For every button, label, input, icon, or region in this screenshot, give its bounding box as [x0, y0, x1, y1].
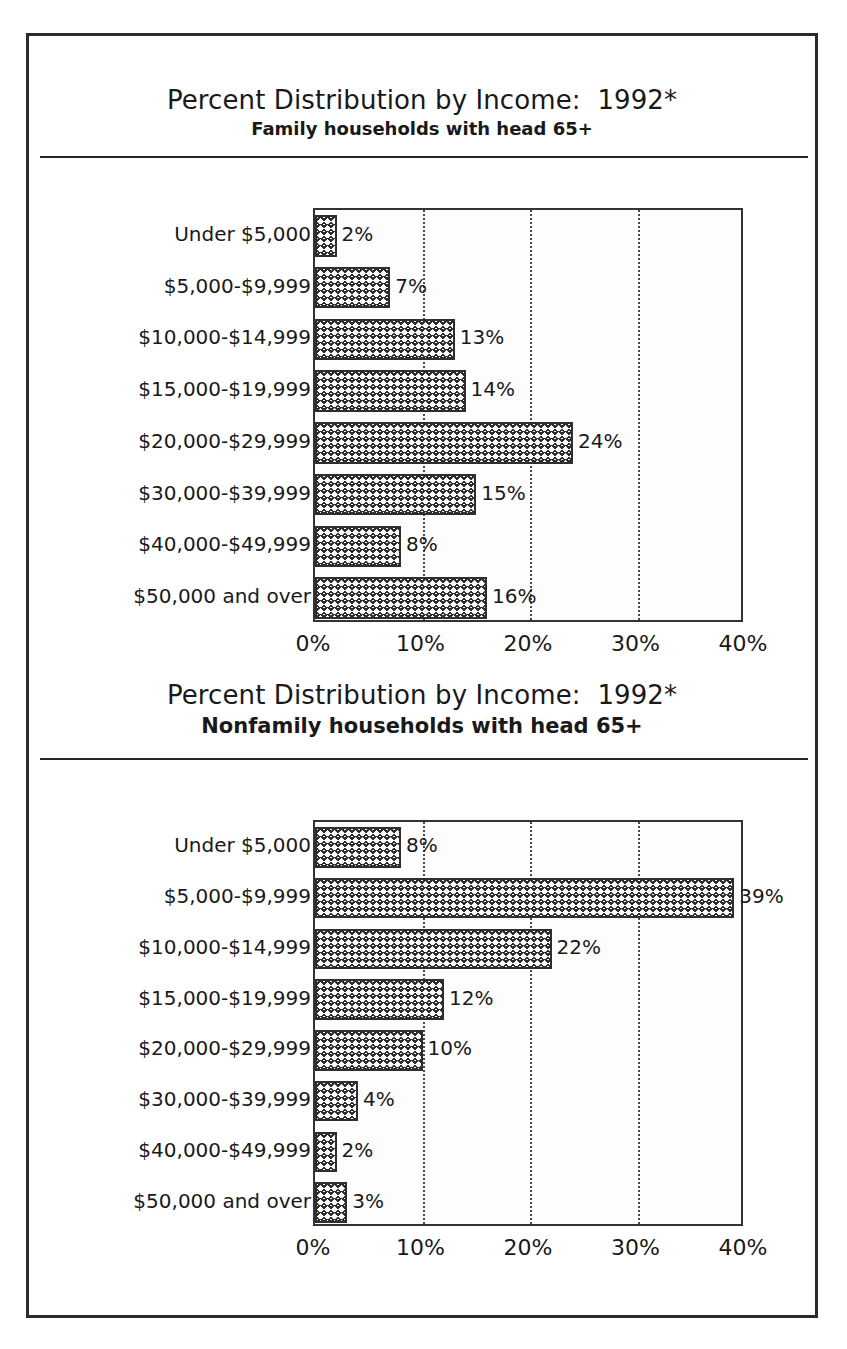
chart-2-divider: [40, 758, 808, 760]
bar: [315, 929, 552, 970]
bar: [315, 878, 734, 919]
chart-2-title: Percent Distribution by Income: 1992*: [29, 681, 815, 710]
x-tick-label: 40%: [719, 631, 768, 656]
category-label: Under $5,000: [29, 833, 311, 857]
x-tick-label: 20%: [504, 1235, 553, 1260]
category-label: $50,000 and over: [29, 1189, 311, 1213]
bar: [315, 1030, 423, 1071]
page-border: Percent Distribution by Income: 1992* Fa…: [26, 33, 818, 1318]
bar-value-label: 3%: [352, 1189, 384, 1213]
chart-2-plot-area: [313, 820, 743, 1226]
bar-value-label: 4%: [363, 1087, 395, 1111]
bar-value-label: 8%: [406, 532, 438, 556]
bar-value-label: 39%: [739, 884, 783, 908]
x-tick-label: 30%: [611, 631, 660, 656]
bar-value-label: 12%: [449, 986, 493, 1010]
bar-value-label: 15%: [481, 481, 525, 505]
category-label: $5,000-$9,999: [29, 274, 311, 298]
bar-value-label: 14%: [471, 377, 515, 401]
bar: [315, 1132, 337, 1173]
category-label: $20,000-$29,999: [29, 1036, 311, 1060]
category-label: $50,000 and over: [29, 584, 311, 608]
category-label: $10,000-$14,999: [29, 325, 311, 349]
x-tick-label: 30%: [611, 1235, 660, 1260]
x-tick-label: 10%: [396, 1235, 445, 1260]
bar-value-label: 2%: [342, 1138, 374, 1162]
category-label: $15,000-$19,999: [29, 377, 311, 401]
bar-value-label: 13%: [460, 325, 504, 349]
bar-value-label: 8%: [406, 833, 438, 857]
x-tick-label: 0%: [296, 1235, 331, 1260]
bar-value-label: 2%: [342, 222, 374, 246]
bar: [315, 1081, 358, 1122]
x-tick-label: 40%: [719, 1235, 768, 1260]
bar: [315, 1182, 347, 1223]
category-label: $30,000-$39,999: [29, 1087, 311, 1111]
bar: [315, 827, 401, 868]
category-label: $10,000-$14,999: [29, 935, 311, 959]
category-label: $20,000-$29,999: [29, 429, 311, 453]
category-label: $40,000-$49,999: [29, 532, 311, 556]
category-label: $5,000-$9,999: [29, 884, 311, 908]
x-tick-label: 20%: [504, 631, 553, 656]
bar-value-label: 7%: [395, 274, 427, 298]
bar-value-label: 16%: [492, 584, 536, 608]
x-tick-label: 0%: [296, 631, 331, 656]
bar-value-label: 22%: [557, 935, 601, 959]
category-label: Under $5,000: [29, 222, 311, 246]
category-label: $30,000-$39,999: [29, 481, 311, 505]
bar: [315, 979, 444, 1020]
bar: [315, 577, 487, 618]
x-tick-label: 10%: [396, 631, 445, 656]
chart-2-subtitle: Nonfamily households with head 65+: [29, 714, 815, 739]
category-label: $40,000-$49,999: [29, 1138, 311, 1162]
category-label: $15,000-$19,999: [29, 986, 311, 1010]
bar-value-label: 10%: [428, 1036, 472, 1060]
chart-2-title-block: Percent Distribution by Income: 1992* No…: [29, 681, 815, 739]
bar-value-label: 24%: [578, 429, 622, 453]
